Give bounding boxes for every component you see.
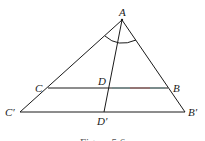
segment-AB-prime (122, 20, 185, 112)
label-D-prime: D′ (96, 115, 108, 127)
similar-triangles-diagram: A C D B C′ D′ B′ Figure 5.6 (0, 0, 205, 141)
angle-arc-A (105, 36, 136, 43)
label-C-prime: C′ (5, 106, 15, 118)
figure-caption: Figure 5.6 (80, 136, 126, 141)
vertex-A-dot (121, 19, 123, 21)
label-D: D (97, 75, 106, 87)
label-B: B (173, 82, 180, 94)
label-C: C (35, 82, 43, 94)
label-A: A (118, 6, 126, 18)
label-B-prime: B′ (188, 106, 198, 118)
